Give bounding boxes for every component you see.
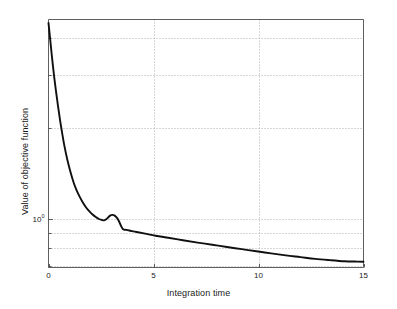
figure-canvas: Integration time Value of objective func…	[0, 0, 397, 309]
x-axis-label: Integration time	[0, 288, 397, 298]
x-tick-label: 5	[151, 271, 155, 280]
y-tick-mantissa: 10	[33, 214, 42, 223]
y-axis-label: Value of objective function	[20, 108, 30, 215]
tickmarks-group	[49, 39, 365, 268]
x-tick-label: 0	[46, 271, 50, 280]
x-tick-label: 10	[254, 271, 263, 280]
gridlines-group	[49, 20, 364, 268]
data-series-line	[49, 23, 364, 262]
axes-box	[49, 20, 364, 268]
x-tick-label: 15	[359, 271, 368, 280]
chart-plot-area	[0, 0, 397, 309]
y-tick-exponent: 0	[41, 213, 44, 219]
y-tick-label: 100	[23, 214, 45, 223]
